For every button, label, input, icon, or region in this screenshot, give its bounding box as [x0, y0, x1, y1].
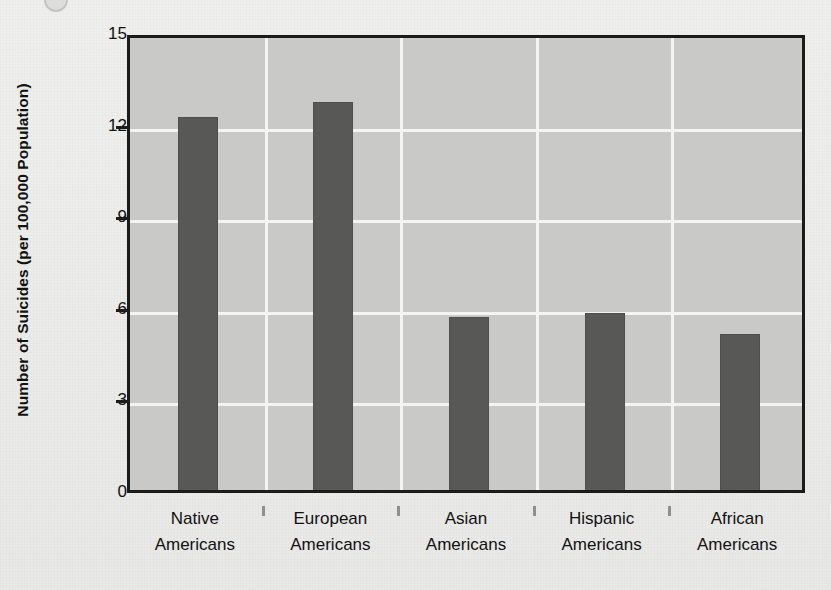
y-tick-mark [116, 400, 127, 403]
x-tick-label: AsianAmericans [398, 506, 534, 576]
x-tick-label-line: Americans [263, 532, 399, 558]
y-tick-label: 15 [65, 24, 127, 44]
gridline-horizontal [130, 129, 802, 132]
x-tick-label: NativeAmericans [127, 506, 263, 576]
x-tick-label-line: African [711, 509, 764, 528]
x-tick-mark [668, 506, 671, 516]
y-tick-mark [116, 309, 127, 312]
y-tick-label: 0 [65, 482, 127, 502]
bar-african-americans [720, 334, 760, 490]
x-tick-label-line: Hispanic [569, 509, 634, 528]
gridline-vertical [536, 38, 539, 490]
y-axis-title: Number of Suicides (per 100,000 Populati… [0, 0, 46, 500]
x-tick-mark [262, 506, 265, 516]
x-tick-label: EuropeanAmericans [263, 506, 399, 576]
y-axis-title-text: Number of Suicides (per 100,000 Populati… [14, 83, 32, 416]
x-tick-label-line: Americans [127, 532, 263, 558]
y-tick-mark [116, 217, 127, 220]
x-tick-label-line: Americans [398, 532, 534, 558]
x-tick-label-line: Americans [534, 532, 670, 558]
gridline-horizontal [130, 220, 802, 223]
bar-native-americans [178, 117, 218, 490]
gridline-vertical [671, 38, 674, 490]
y-tick-mark [116, 126, 127, 129]
x-axis-categories: NativeAmericansEuropeanAmericansAsianAme… [127, 506, 805, 576]
bar-european-americans [313, 102, 353, 490]
x-tick-label-line: European [294, 509, 368, 528]
x-tick-label-line: Native [171, 509, 219, 528]
x-tick-mark [533, 506, 536, 516]
x-tick-label-line: Asian [445, 509, 488, 528]
gridline-vertical [400, 38, 403, 490]
x-tick-mark [397, 506, 400, 516]
x-tick-label: HispanicAmericans [534, 506, 670, 576]
x-tick-label: AfricanAmericans [669, 506, 805, 576]
bar-asian-americans [449, 317, 489, 490]
y-axis-ticks: 03691215 [46, 0, 127, 590]
gridline-vertical [265, 38, 268, 490]
x-tick-label-line: Americans [669, 532, 805, 558]
bar-hispanic-americans [585, 313, 625, 490]
gridline-horizontal [130, 312, 802, 315]
plot-inner [130, 38, 802, 490]
plot-area [127, 35, 805, 493]
